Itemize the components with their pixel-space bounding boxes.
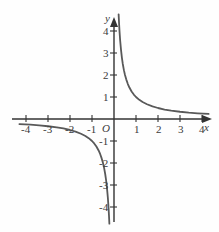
x-tick-label--1: -1 xyxy=(87,124,96,135)
y-tick-label-3: 3 xyxy=(103,48,109,59)
curve-branch-positive xyxy=(119,14,209,114)
y-tick-label--2: -2 xyxy=(99,158,108,169)
y-tick-label--3: -3 xyxy=(99,180,108,191)
curve-branch-negative xyxy=(19,124,109,224)
y-tick-label-4: 4 xyxy=(103,26,109,37)
x-tick-label--2: -2 xyxy=(65,124,74,135)
origin-label: O xyxy=(102,123,110,134)
y-axis-arrow-icon xyxy=(110,17,118,27)
y-axis-label: y xyxy=(105,13,110,24)
y-tick-label-2: 2 xyxy=(103,70,109,81)
x-tick-label-1: 1 xyxy=(134,124,140,135)
y-tick-label--1: -1 xyxy=(99,136,108,147)
x-tick-label-3: 3 xyxy=(178,124,184,135)
plot-canvas xyxy=(0,0,219,232)
x-tick-label--4: -4 xyxy=(21,124,30,135)
x-tick-label--3: -3 xyxy=(43,124,52,135)
x-axis-label: x xyxy=(204,122,209,133)
hyperbola-graph-figure: -4 -3 -2 -1 1 2 3 4 4 3 2 1 -1 -2 -3 -4 … xyxy=(0,0,219,232)
y-tick-label--4: -4 xyxy=(99,202,108,213)
y-tick-label-1: 1 xyxy=(103,92,109,103)
x-tick-label-2: 2 xyxy=(156,124,162,135)
